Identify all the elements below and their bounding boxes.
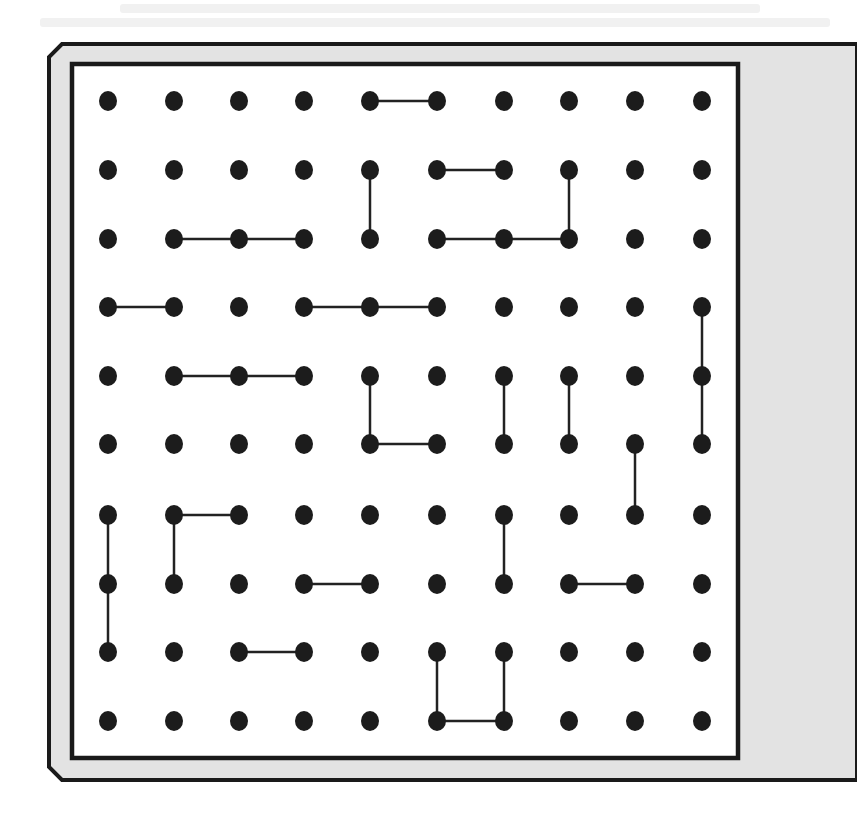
grid-dot[interactable] bbox=[693, 642, 711, 662]
grid-dot[interactable] bbox=[99, 711, 117, 731]
grid-dot[interactable] bbox=[693, 297, 711, 317]
grid-dot[interactable] bbox=[626, 711, 644, 731]
grid-dot[interactable] bbox=[165, 160, 183, 180]
grid-dot[interactable] bbox=[230, 91, 248, 111]
grid-dot[interactable] bbox=[495, 434, 513, 454]
grid-dot[interactable] bbox=[295, 91, 313, 111]
grid-dot[interactable] bbox=[626, 229, 644, 249]
grid-dot[interactable] bbox=[560, 366, 578, 386]
grid-dot[interactable] bbox=[428, 434, 446, 454]
grid-dot[interactable] bbox=[693, 229, 711, 249]
grid-dot[interactable] bbox=[99, 642, 117, 662]
grid-dot[interactable] bbox=[361, 574, 379, 594]
grid-dot[interactable] bbox=[361, 642, 379, 662]
grid-dot[interactable] bbox=[626, 574, 644, 594]
grid-dot[interactable] bbox=[560, 711, 578, 731]
grid-dot[interactable] bbox=[230, 434, 248, 454]
grid-dot[interactable] bbox=[428, 505, 446, 525]
grid-dot[interactable] bbox=[361, 505, 379, 525]
grid-dot[interactable] bbox=[99, 91, 117, 111]
grid-dot[interactable] bbox=[428, 574, 446, 594]
grid-dot[interactable] bbox=[495, 642, 513, 662]
grid-dot[interactable] bbox=[230, 574, 248, 594]
grid-dot[interactable] bbox=[495, 505, 513, 525]
grid-dot[interactable] bbox=[693, 160, 711, 180]
grid-dot[interactable] bbox=[693, 505, 711, 525]
grid-dot[interactable] bbox=[230, 505, 248, 525]
grid-dot[interactable] bbox=[495, 297, 513, 317]
grid-dot[interactable] bbox=[495, 366, 513, 386]
grid-dot[interactable] bbox=[693, 434, 711, 454]
grid-dot[interactable] bbox=[165, 229, 183, 249]
grid-dot[interactable] bbox=[295, 642, 313, 662]
grid-dot[interactable] bbox=[626, 434, 644, 454]
grid-dot[interactable] bbox=[99, 434, 117, 454]
grid-dot[interactable] bbox=[165, 711, 183, 731]
grid-dot[interactable] bbox=[495, 229, 513, 249]
grid-dot[interactable] bbox=[295, 366, 313, 386]
grid-dot[interactable] bbox=[361, 434, 379, 454]
grid-dot[interactable] bbox=[626, 642, 644, 662]
grid-dot[interactable] bbox=[165, 434, 183, 454]
grid-dot[interactable] bbox=[295, 297, 313, 317]
grid-dot[interactable] bbox=[99, 297, 117, 317]
grid-dot[interactable] bbox=[165, 297, 183, 317]
grid-dot[interactable] bbox=[560, 574, 578, 594]
grid-dot[interactable] bbox=[626, 91, 644, 111]
grid-dot[interactable] bbox=[230, 711, 248, 731]
grid-dot[interactable] bbox=[428, 160, 446, 180]
grid-dot[interactable] bbox=[99, 366, 117, 386]
grid-dot[interactable] bbox=[626, 160, 644, 180]
grid-dot[interactable] bbox=[361, 229, 379, 249]
grid-dot[interactable] bbox=[165, 91, 183, 111]
grid-dot[interactable] bbox=[626, 505, 644, 525]
grid-dot[interactable] bbox=[560, 297, 578, 317]
grid-dot[interactable] bbox=[295, 505, 313, 525]
grid-dot[interactable] bbox=[693, 711, 711, 731]
grid-dot[interactable] bbox=[428, 297, 446, 317]
grid-dot[interactable] bbox=[165, 366, 183, 386]
grid-dot[interactable] bbox=[99, 574, 117, 594]
grid-dot[interactable] bbox=[230, 297, 248, 317]
grid-dot[interactable] bbox=[361, 160, 379, 180]
grid-dot[interactable] bbox=[560, 505, 578, 525]
grid-dot[interactable] bbox=[230, 160, 248, 180]
grid-dot[interactable] bbox=[560, 642, 578, 662]
grid-dot[interactable] bbox=[560, 160, 578, 180]
grid-dot[interactable] bbox=[693, 366, 711, 386]
grid-dot[interactable] bbox=[99, 160, 117, 180]
grid-dot[interactable] bbox=[165, 574, 183, 594]
grid-dot[interactable] bbox=[230, 229, 248, 249]
grid-dot[interactable] bbox=[693, 574, 711, 594]
grid-dot[interactable] bbox=[295, 711, 313, 731]
grid-dot[interactable] bbox=[428, 366, 446, 386]
grid-dot[interactable] bbox=[361, 91, 379, 111]
grid-dot[interactable] bbox=[428, 91, 446, 111]
grid-dot[interactable] bbox=[361, 297, 379, 317]
grid-dot[interactable] bbox=[295, 160, 313, 180]
grid-dot[interactable] bbox=[361, 366, 379, 386]
grid-dot[interactable] bbox=[99, 505, 117, 525]
grid-dot[interactable] bbox=[495, 574, 513, 594]
grid-dot[interactable] bbox=[230, 366, 248, 386]
grid-dot[interactable] bbox=[495, 711, 513, 731]
grid-dot[interactable] bbox=[560, 229, 578, 249]
grid-dot[interactable] bbox=[428, 711, 446, 731]
grid-dot[interactable] bbox=[165, 642, 183, 662]
grid-dot[interactable] bbox=[693, 91, 711, 111]
grid-dot[interactable] bbox=[495, 160, 513, 180]
grid-dot[interactable] bbox=[495, 91, 513, 111]
grid-dot[interactable] bbox=[165, 505, 183, 525]
grid-dot[interactable] bbox=[626, 297, 644, 317]
grid-dot[interactable] bbox=[626, 366, 644, 386]
grid-dot[interactable] bbox=[295, 574, 313, 594]
grid-dot[interactable] bbox=[295, 229, 313, 249]
grid-dot[interactable] bbox=[560, 434, 578, 454]
grid-dot[interactable] bbox=[428, 642, 446, 662]
grid-dot[interactable] bbox=[99, 229, 117, 249]
grid-dot[interactable] bbox=[295, 434, 313, 454]
grid-dot[interactable] bbox=[560, 91, 578, 111]
grid-dot[interactable] bbox=[361, 711, 379, 731]
grid-dot[interactable] bbox=[230, 642, 248, 662]
grid-dot[interactable] bbox=[428, 229, 446, 249]
